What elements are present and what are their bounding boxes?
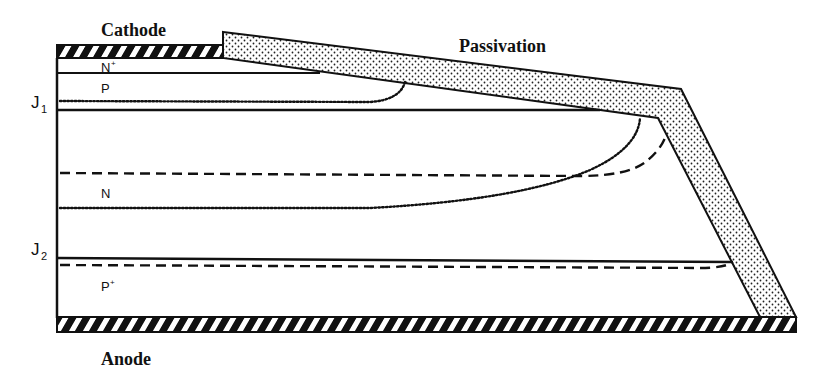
cathode-label: Cathode: [101, 20, 166, 40]
p-plus-label: P: [101, 279, 110, 294]
j1-sub: 1: [41, 103, 47, 115]
depletion-boundary-j1-dotted: [60, 118, 640, 208]
depletion-boundary-j2-dashed-upper: [60, 138, 665, 176]
p-plus-sup: +: [110, 278, 115, 287]
n-plus-sup: +: [111, 59, 116, 68]
anode-label: Anode: [101, 349, 151, 369]
p-label: P: [101, 81, 110, 96]
n-label: N: [101, 186, 110, 201]
j2-sub: 2: [41, 250, 47, 262]
depletion-boundary-j2-dashed-lower: [60, 262, 733, 268]
depletion-boundary-upper-dotted: [60, 82, 405, 102]
thyristor-bevel-diagram: Cathode Passivation Anode N + P N P + J …: [0, 0, 830, 380]
anode-contact: [57, 317, 796, 332]
n-plus-label: N: [101, 60, 110, 75]
j1-label: J: [31, 93, 40, 112]
cathode-contact: [57, 45, 223, 58]
j2-label: J: [31, 240, 40, 259]
junction-j2-line: [57, 258, 733, 262]
passivation-label: Passivation: [459, 36, 546, 56]
